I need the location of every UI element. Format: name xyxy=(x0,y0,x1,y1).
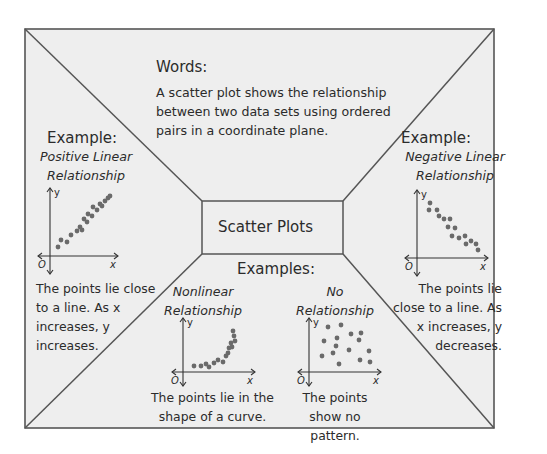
x-axis-label: x xyxy=(479,261,486,272)
origin-label: O xyxy=(38,259,46,270)
subtitle-line: Relationship xyxy=(163,301,243,320)
center-title: Scatter Plots xyxy=(218,220,313,235)
subtitle-line: Relationship xyxy=(405,166,505,185)
examples-heading: Examples: xyxy=(237,262,315,277)
data-point xyxy=(233,339,238,344)
panel-description: The points lie in the shape of a curve. xyxy=(150,388,275,426)
data-point xyxy=(463,234,468,239)
panel-description: The points show no pattern. xyxy=(285,388,385,445)
data-point xyxy=(331,351,336,356)
data-point xyxy=(347,348,352,353)
subtitle-line: No xyxy=(295,282,375,301)
data-point xyxy=(457,236,462,241)
data-point xyxy=(226,351,231,356)
panel-title: Example: xyxy=(47,131,117,146)
data-point xyxy=(428,201,433,206)
data-point xyxy=(469,239,474,244)
panel-title: Example: xyxy=(401,131,471,146)
data-point xyxy=(349,332,354,337)
data-point xyxy=(437,214,442,219)
data-point xyxy=(108,194,113,199)
panel-description: The points lie close to a line. As x inc… xyxy=(392,279,502,355)
data-point xyxy=(95,208,100,213)
data-point xyxy=(476,248,481,253)
data-point xyxy=(337,362,342,367)
data-point xyxy=(80,228,85,233)
words-title: Words: xyxy=(156,60,207,75)
origin-label: O xyxy=(297,375,305,386)
data-point xyxy=(335,336,340,341)
data-point xyxy=(231,329,236,334)
data-point xyxy=(367,349,372,354)
data-point xyxy=(232,334,237,339)
panel-subtitle: Positive Linear Relationship xyxy=(36,147,136,185)
data-point xyxy=(334,344,339,349)
data-point xyxy=(322,339,327,344)
panel-description: The points lie close to a line. As x inc… xyxy=(36,279,156,355)
data-point xyxy=(357,338,362,343)
origin-label: O xyxy=(171,375,179,386)
data-point xyxy=(448,217,453,222)
data-point xyxy=(65,240,70,245)
data-point xyxy=(199,364,204,369)
data-point xyxy=(100,204,105,209)
panel-subtitle: No Relationship xyxy=(295,282,375,320)
subtitle-line: Negative Linear xyxy=(405,147,505,166)
x-axis-label: x xyxy=(372,375,379,386)
x-axis-label: x xyxy=(246,375,253,386)
panel-subtitle: Negative Linear Relationship xyxy=(405,147,505,185)
data-point xyxy=(90,214,95,219)
data-point xyxy=(75,229,80,234)
y-axis-label: y xyxy=(421,189,427,200)
data-point xyxy=(450,234,455,239)
subtitle-line: Relationship xyxy=(36,166,136,185)
data-point xyxy=(230,345,235,350)
data-point xyxy=(56,245,61,250)
data-point xyxy=(474,242,479,247)
data-point xyxy=(368,360,373,365)
data-point xyxy=(69,233,74,238)
data-point xyxy=(446,225,451,230)
data-point xyxy=(339,323,344,328)
words-definition: A scatter plot shows the relationship be… xyxy=(156,83,416,140)
origin-label: O xyxy=(405,261,413,272)
data-point xyxy=(453,226,458,231)
data-point xyxy=(464,242,469,247)
data-point xyxy=(207,365,212,370)
data-point xyxy=(427,208,432,213)
x-axis-label: x xyxy=(109,259,116,270)
data-point xyxy=(320,354,325,359)
panel-subtitle: Nonlinear Relationship xyxy=(163,282,243,320)
data-point xyxy=(216,358,221,363)
data-point xyxy=(435,208,440,213)
y-axis-label: y xyxy=(54,187,60,198)
data-point xyxy=(192,364,197,369)
data-point xyxy=(85,220,90,225)
data-point xyxy=(442,217,447,222)
subtitle-line: Positive Linear xyxy=(36,147,136,166)
data-point xyxy=(358,358,363,363)
data-point xyxy=(359,331,364,336)
data-point xyxy=(326,325,331,330)
data-point xyxy=(212,361,217,366)
data-point xyxy=(91,205,96,210)
subtitle-line: Relationship xyxy=(295,301,375,320)
data-point xyxy=(59,238,64,243)
subtitle-line: Nonlinear xyxy=(163,282,243,301)
scatter-plots-graphic-organizer: yxOyxOyxOyxO Scatter Plots Words: A scat… xyxy=(0,0,547,454)
data-point xyxy=(221,360,226,365)
